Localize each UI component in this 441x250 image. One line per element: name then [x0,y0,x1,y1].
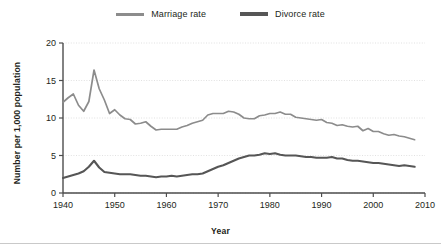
svg-text:1960: 1960 [156,200,176,210]
svg-text:15: 15 [46,76,56,86]
chart-x-axis-ticks: 19401950196019701980199020002010 [53,193,435,210]
chart-x-axis-label: Year [0,226,441,236]
svg-text:1970: 1970 [208,200,228,210]
chart-figure: Marriage rate Divorce rate 05101520 1940… [0,0,441,250]
svg-text:10: 10 [46,113,56,123]
svg-text:1990: 1990 [312,200,332,210]
chart-y-axis-ticks: 05101520 [46,38,63,198]
svg-text:1950: 1950 [105,200,125,210]
chart-plot-area: 05101520 1940195019601970198019902000201… [0,0,441,250]
chart-y-axis-label: Number per 1,000 population [12,43,22,203]
svg-text:2010: 2010 [415,200,435,210]
chart-series-divorce-rate [63,153,415,178]
svg-text:1940: 1940 [53,200,73,210]
svg-text:1980: 1980 [260,200,280,210]
footer-divider [0,243,441,244]
svg-text:5: 5 [51,151,56,161]
svg-text:2000: 2000 [363,200,383,210]
svg-text:20: 20 [46,38,56,48]
svg-text:0: 0 [51,188,56,198]
